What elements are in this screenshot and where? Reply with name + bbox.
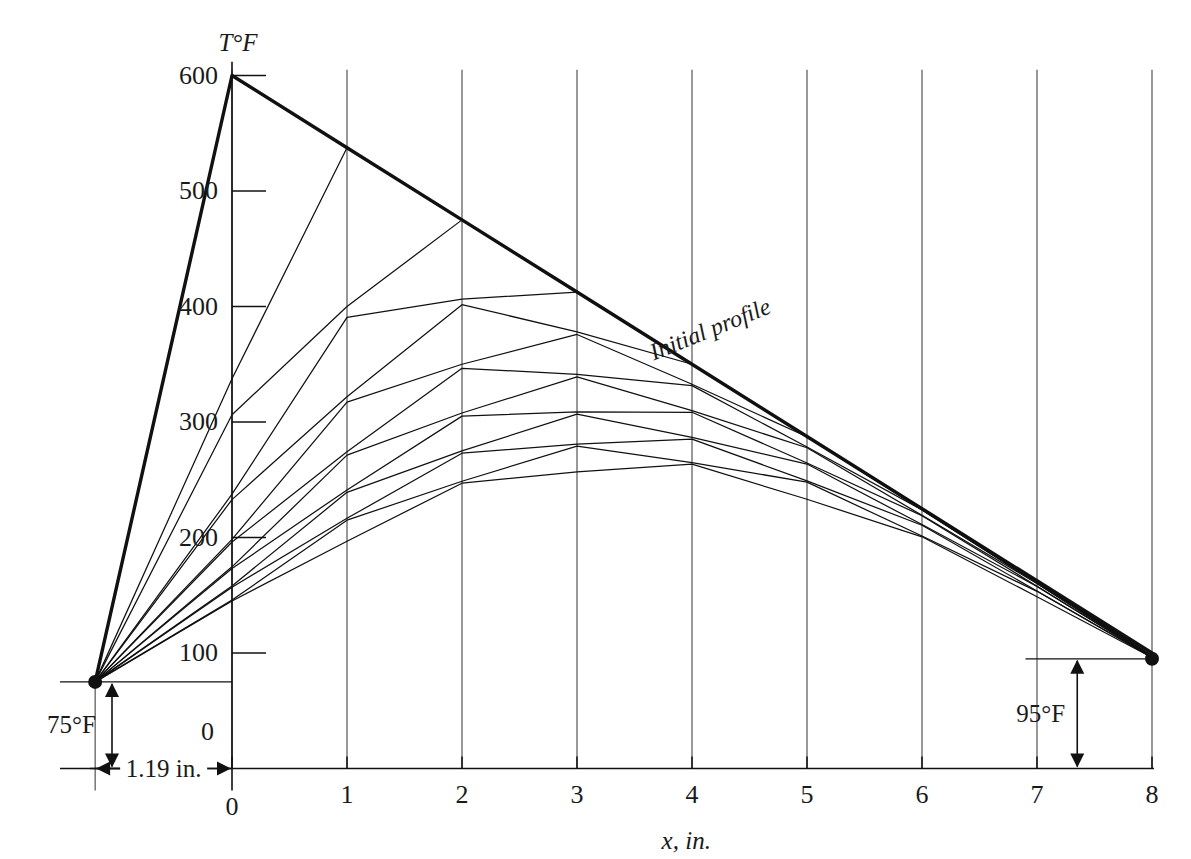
x-tick-label-5: 5 — [801, 780, 814, 810]
x-tick-label-3: 3 — [571, 780, 584, 810]
dimension-arrowhead — [217, 762, 231, 776]
temperature-profile-6 — [95, 368, 1152, 682]
x-tick-label-1: 1 — [341, 780, 354, 810]
y-tick-label-600: 600 — [179, 61, 218, 91]
x-tick-label-0: 0 — [226, 792, 239, 822]
left-surface-temp-dimension-label: 75°F — [47, 711, 96, 739]
right-surface-temp-dimension-label: 95°F — [1016, 700, 1065, 728]
dimension-arrowhead — [1070, 754, 1084, 768]
y-tick-label-500: 500 — [179, 176, 218, 206]
temperature-profile-12 — [95, 464, 1152, 682]
temperature-profile-3 — [95, 292, 1152, 682]
y-axis-zero-label: 0 — [201, 717, 214, 747]
y-tick-label-400: 400 — [179, 292, 218, 322]
y-tick-label-100: 100 — [179, 638, 218, 668]
figure-canvas: T°F x, in. Initial profile 75°F 95°F 1.1… — [0, 0, 1191, 859]
x-tick-label-6: 6 — [916, 780, 929, 810]
y-tick-label-300: 300 — [179, 407, 218, 437]
y-tick-label-200: 200 — [179, 523, 218, 553]
left-surface-node — [88, 675, 102, 689]
temperature-profile-5 — [95, 334, 1152, 681]
temperature-profile-11 — [95, 446, 1152, 682]
x-tick-label-2: 2 — [456, 780, 469, 810]
x-tick-label-8: 8 — [1146, 780, 1159, 810]
temperature-profile-4 — [95, 305, 1152, 682]
dimension-arrowhead — [1070, 660, 1084, 674]
temperature-profile-2 — [95, 220, 1152, 682]
dimension-arrowhead — [105, 683, 119, 697]
slab-offset-dimension-label: 1.19 in. — [120, 755, 208, 783]
x-axis-title: x, in. — [662, 827, 711, 855]
y-axis-title: T°F — [218, 29, 257, 57]
temperature-profile-10 — [95, 439, 1152, 682]
x-tick-label-4: 4 — [686, 780, 699, 810]
x-tick-label-7: 7 — [1031, 780, 1044, 810]
temperature-profile-1 — [95, 148, 1152, 682]
temperature-profile-9 — [95, 414, 1152, 682]
dimension-arrowhead — [96, 762, 110, 776]
right-surface-node — [1145, 652, 1159, 666]
